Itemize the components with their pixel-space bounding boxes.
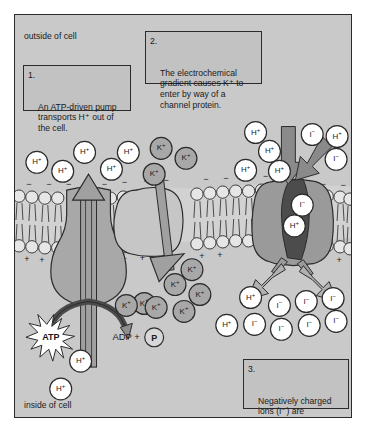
ion-h-plus: H+: [268, 160, 290, 182]
ion-h-plus: H+: [326, 126, 348, 148]
ion-k-plus: K+: [164, 274, 186, 296]
ion-iodide: I−: [301, 124, 323, 146]
svg-text:−: −: [102, 179, 107, 189]
svg-text:−: −: [263, 171, 268, 181]
ion-k-plus: K+: [150, 137, 172, 159]
svg-text:−: −: [340, 180, 345, 190]
atp-label: ATP: [42, 332, 59, 342]
svg-text:−: −: [223, 173, 228, 183]
ion-k-plus: K+: [181, 259, 203, 281]
ion-iodide: I−: [322, 288, 344, 310]
ion-h-plus: H+: [52, 160, 74, 182]
svg-text:−: −: [46, 179, 51, 189]
ion-h-plus: H+: [259, 140, 281, 162]
ion-k-plus: K+: [175, 147, 197, 169]
ion-iodide: I−: [291, 194, 313, 216]
callout-step-1: 1. An ATP-driven pump transports H⁺ out …: [23, 65, 131, 111]
callout-step-2-text: The electrochemical gradient causes K⁺ t…: [160, 68, 256, 110]
svg-text:+: +: [336, 255, 341, 265]
ion-k-plus: K+: [173, 300, 195, 322]
inside-of-cell-label: inside of cell: [24, 400, 71, 410]
ion-h-plus: H+: [70, 350, 92, 372]
phosphate-label: P: [151, 333, 157, 343]
ion-h-plus: H+: [100, 158, 122, 180]
ion-iodide: I−: [268, 295, 290, 317]
callout-step-1-text: An ATP-driven pump transports H⁺ out of …: [38, 102, 125, 134]
outside-of-cell-label: outside of cell: [24, 31, 77, 41]
adp-label: ADP +: [112, 331, 140, 342]
callout-step-2: 2. The electrochemical gradient causes K…: [145, 31, 262, 84]
ion-iodide: I−: [295, 291, 317, 313]
ion-h-plus: H+: [283, 215, 305, 237]
callout-step-3-number: 3.: [248, 364, 255, 375]
callout-step-3: 3. Negatively charged ions (I⁻) are tran…: [243, 359, 349, 409]
svg-text:−: −: [122, 177, 127, 187]
diagram-panel: − − − − − − − − − − − − − + + + + +: [14, 14, 352, 418]
callout-step-1-number: 1.: [28, 70, 35, 81]
ion-k-plus: K+: [189, 284, 211, 306]
phosphate-ion: P: [145, 328, 164, 347]
svg-text:+: +: [217, 250, 222, 260]
ion-h-plus: H+: [240, 287, 262, 309]
ion-h-plus: H+: [50, 378, 72, 400]
adp-phosphate-group: ADP +: [112, 331, 140, 342]
ion-iodide: I−: [244, 313, 266, 335]
ion-iodide: I−: [298, 314, 320, 336]
ion-iodide: I−: [325, 148, 347, 170]
ion-k-plus: K+: [143, 163, 165, 185]
svg-text:+: +: [39, 255, 44, 265]
svg-text:−: −: [26, 179, 31, 189]
ion-iodide: I−: [325, 310, 347, 332]
ion-h-plus: H+: [216, 314, 238, 336]
svg-text:+: +: [199, 251, 204, 261]
ion-h-plus: H+: [235, 159, 257, 181]
svg-text:−: −: [203, 174, 208, 184]
svg-text:+: +: [24, 254, 29, 264]
callout-step-2-number: 2.: [150, 36, 157, 47]
ion-k-plus: K+: [115, 295, 137, 317]
callout-step-3-text: Negatively charged ions (I⁻) are transpo…: [258, 396, 343, 418]
ion-k-plus: K+: [145, 297, 167, 319]
ion-iodide: I−: [270, 318, 292, 340]
